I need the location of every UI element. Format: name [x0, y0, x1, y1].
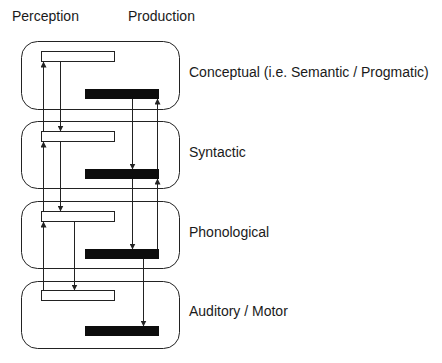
production-arrows [133, 99, 158, 326]
production-bar-auditory-motor [85, 326, 159, 336]
production-bar-syntactic [85, 169, 159, 179]
level-label-syntactic: Syntactic [189, 144, 246, 161]
perception-bar-syntactic [42, 132, 115, 142]
perception-bar-conceptual [42, 52, 115, 62]
level-label-auditory-motor: Auditory / Motor [189, 303, 288, 320]
production-bar-conceptual [85, 89, 159, 99]
perception-bar-auditory-motor [42, 291, 115, 301]
production-bar-phonological [85, 249, 159, 259]
level-box-phonological [22, 202, 180, 269]
level-box-auditory-motor [22, 282, 180, 349]
level-box-conceptual [22, 42, 180, 110]
level-label-conceptual: Conceptual (i.e. Semantic / Progmatic) [189, 64, 429, 81]
level-label-phonological: Phonological [189, 224, 269, 241]
perception-bar-phonological [42, 212, 115, 222]
perception-arrows [44, 62, 75, 290]
level-box-syntactic [22, 122, 180, 189]
